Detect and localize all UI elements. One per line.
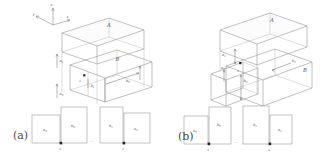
dimension-a1-a: a1 [56, 54, 64, 68]
dimension-a0-a: a0 [56, 84, 64, 98]
panel-b: (b) B [164, 0, 328, 163]
strip-marker-b0-b [208, 143, 211, 146]
strip-marker-b0-a [60, 142, 63, 145]
strip-rect-b1-a [100, 107, 123, 143]
strip-mark-label-b0-a: x [59, 147, 61, 151]
dim-label-a0-a: a0 [60, 92, 64, 97]
dim-label-a1-a: a1 [60, 59, 64, 64]
strip-rect-a0-a [32, 115, 60, 143]
strip-mark-label-a1-b: x [268, 148, 270, 152]
strip-ellipsis-b: ... [234, 139, 238, 144]
strip-marker-a1-b [269, 143, 272, 146]
origin-label-b: x [237, 69, 239, 73]
dim-label-b0-b: b0 [244, 79, 248, 84]
coordinate-axes-a: z y x [32, 3, 71, 25]
strip-group-a: a0 b0 x ... b1 a1 x [32, 107, 150, 151]
strip-group-b: a0 b0 x ... b1 a1 x [184, 106, 292, 152]
panel-a: (a) z y x [0, 0, 164, 163]
dim-label-a0-b: a0 [221, 66, 225, 71]
lower-block-b-a: B [70, 50, 152, 102]
figure-canvas: (a) z y x [0, 0, 328, 163]
strip-ellipsis-a: ... [90, 138, 94, 143]
strip-rect-a1-a [124, 113, 150, 143]
axis-label-y: y [32, 12, 36, 16]
panel-b-tag: (b) [178, 130, 194, 143]
strip-rect-b0-a [61, 107, 87, 143]
label-A-b: A [269, 17, 274, 23]
origin-label-a: x [79, 79, 81, 83]
strip-marker-a1-a [123, 142, 126, 145]
label-B-b: B [302, 67, 307, 73]
dimension-b0-b: b0 [240, 75, 248, 100]
dim-label-b1-a: b1 [91, 84, 95, 89]
strip-mark-label-a1-a: x [122, 147, 124, 151]
origin-marker-a: x [79, 74, 85, 83]
panel-a-tag: (a) [13, 129, 28, 142]
label-A-a: A [106, 22, 111, 28]
lower-block-b-b: B [211, 49, 312, 106]
axis-label-z: z [50, 3, 53, 7]
label-B-a: B [115, 56, 120, 62]
dim-label-a1-b: a1 [222, 53, 226, 58]
axis-label-x: x [67, 15, 69, 19]
strip-mark-label-b0-b: x [207, 148, 209, 152]
dim-label-b0-a: b0 [126, 79, 130, 84]
